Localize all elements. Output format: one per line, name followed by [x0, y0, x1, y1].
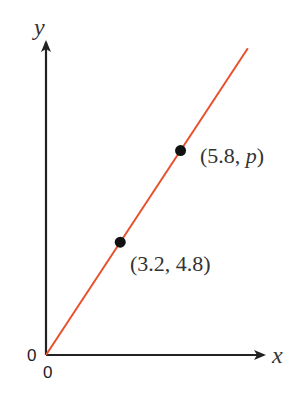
point-label-2-suffix: ) [257, 143, 264, 168]
point-label-2: (5.8, p) [200, 143, 264, 168]
x-origin-tick-label: 0 [43, 363, 52, 382]
y-origin-tick-label: 0 [27, 346, 36, 365]
data-point-2 [175, 145, 186, 156]
x-axis-label: x [271, 342, 283, 368]
point-label-1: (3.2, 4.8) [130, 251, 211, 276]
point-label-2-prefix: (5.8, [200, 143, 246, 168]
point-label-2-var: p [244, 143, 257, 168]
data-point-1 [115, 237, 126, 248]
chart: x y 0 0 (3.2, 4.8) (5.8, p) [0, 0, 300, 406]
y-axis-label: y [32, 14, 45, 40]
series-line [46, 48, 248, 355]
